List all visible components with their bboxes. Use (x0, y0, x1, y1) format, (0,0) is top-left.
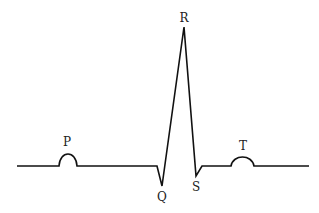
label-t: T (239, 139, 247, 153)
ecg-diagram: P Q R S T (0, 0, 319, 213)
label-p: P (63, 135, 71, 149)
label-r: R (179, 11, 189, 25)
label-s: S (192, 180, 200, 194)
label-q: Q (157, 190, 167, 204)
ecg-waveform (17, 27, 309, 186)
